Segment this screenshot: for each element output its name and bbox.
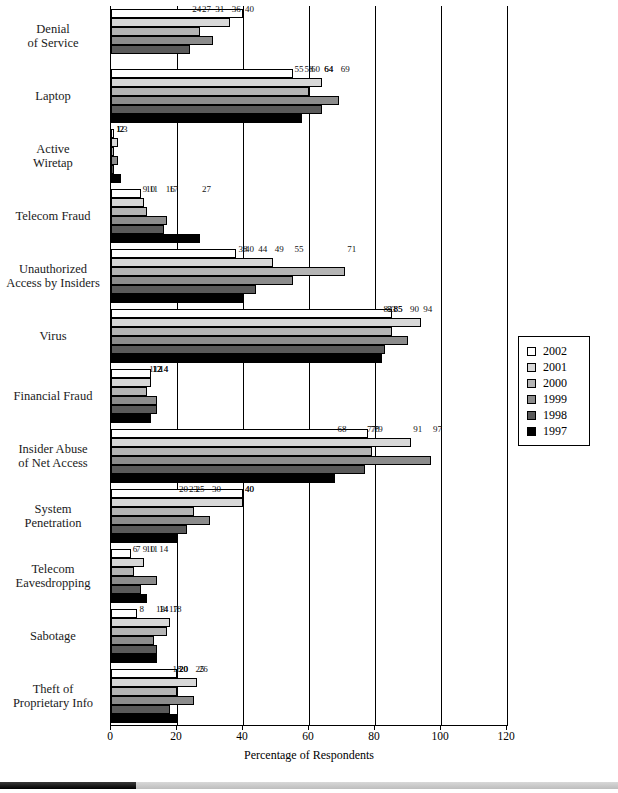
bar-value-label: 25 (194, 664, 205, 675)
bar (111, 396, 157, 405)
legend-label: 2002 (543, 344, 567, 358)
bar (111, 318, 421, 327)
bar (111, 558, 144, 567)
bar-value-label: 55 (293, 244, 304, 255)
bar (111, 174, 121, 183)
bar-value-label: 71 (345, 244, 356, 255)
bar-value-label: 3 (121, 124, 128, 135)
bar-value-label: 94 (421, 304, 432, 315)
bar (111, 267, 345, 276)
bar (111, 705, 170, 714)
bar (111, 618, 170, 627)
legend-swatch-icon (527, 411, 536, 420)
legend-swatch-icon (527, 395, 536, 404)
bar (111, 78, 322, 87)
bar-group: 610714911 (111, 546, 507, 606)
category-label-line: Active (0, 142, 106, 156)
category-label: Laptop (0, 89, 106, 103)
bar (111, 18, 230, 27)
category-label: Theft ofProprietary Info (0, 682, 106, 710)
legend-swatch-icon (527, 379, 536, 388)
category-label-line: Sabotage (0, 629, 106, 643)
x-tick-label: 100 (425, 730, 455, 742)
bar-value-label: 64 (322, 64, 333, 75)
bar (111, 507, 194, 516)
bar (111, 645, 157, 654)
category-label: Sabotage (0, 629, 106, 643)
bar (111, 369, 151, 378)
bar (111, 309, 392, 318)
bar-value-label: 24 (190, 4, 201, 15)
bar-group: 859485908382 (111, 306, 507, 366)
bar (111, 114, 302, 123)
bar-value-label: 44 (256, 244, 267, 255)
bar (111, 147, 114, 156)
legend-item[interactable]: 2002 (527, 343, 585, 359)
bar (111, 198, 144, 207)
x-tick-label: 20 (161, 730, 191, 742)
category-label-line: Eavesdropping (0, 576, 106, 590)
bar-value-label: 12 (151, 364, 162, 375)
bar (111, 714, 177, 723)
bottom-scroll-bar[interactable] (0, 782, 618, 789)
bar-group: 121211141412 (111, 366, 507, 426)
chart-legend: 200220012000199919981997 (518, 336, 590, 446)
category-label-line: Telecom (0, 562, 106, 576)
bar (111, 678, 197, 687)
bar (111, 585, 141, 594)
legend-swatch-icon (527, 347, 536, 356)
bar (111, 516, 210, 525)
bar (111, 189, 141, 198)
bar-value-label: 8 (137, 604, 144, 615)
bar (111, 474, 335, 483)
bar (111, 27, 200, 36)
bar-value-label: 9 (141, 544, 148, 555)
bar (111, 405, 157, 414)
bar-value-label: 58 (302, 64, 313, 75)
legend-item[interactable]: 1998 (527, 407, 585, 423)
bar-group: 556460696458 (111, 66, 507, 126)
bar (111, 627, 167, 636)
bar-value-label: 40 (243, 4, 254, 15)
legend-swatch-icon (527, 363, 536, 372)
category-label: SystemPenetration (0, 502, 106, 530)
bar-value-label: 27 (200, 4, 211, 15)
legend-item[interactable]: 1999 (527, 391, 585, 407)
bar-group: 789179977768 (111, 426, 507, 486)
bar (111, 207, 147, 216)
bar-value-label: 7 (134, 544, 141, 555)
category-label-line: Insider Abuse (0, 442, 106, 456)
bar-group: 121213 (111, 126, 507, 186)
category-label: Denialof Service (0, 22, 106, 50)
bar-group: 384971554440 (111, 246, 507, 306)
bar-value-label: 69 (339, 64, 350, 75)
bar-value-label: 68 (335, 424, 346, 435)
category-label-line: Laptop (0, 89, 106, 103)
bar-value-label: 77 (365, 424, 376, 435)
x-tick-label: 120 (491, 730, 521, 742)
legend-item[interactable]: 1997 (527, 423, 585, 439)
legend-item[interactable]: 2001 (527, 359, 585, 375)
legend-item[interactable]: 2000 (527, 375, 585, 391)
bar (111, 294, 243, 303)
bar-group: 81817131414 (111, 606, 507, 666)
bar (111, 609, 137, 618)
bar-value-label: 11 (147, 544, 158, 555)
bar (111, 45, 190, 54)
category-label-line: of Net Access (0, 456, 106, 470)
bar (111, 696, 194, 705)
legend-label: 2001 (543, 360, 567, 374)
bar (111, 429, 368, 438)
bar (111, 156, 118, 165)
bar (111, 69, 293, 78)
bar (111, 285, 256, 294)
bar-value-label: 31 (213, 4, 224, 15)
category-label: TelecomEavesdropping (0, 562, 106, 590)
category-label-line: System (0, 502, 106, 516)
legend-label: 2000 (543, 376, 567, 390)
bar-value-label: 20 (177, 484, 188, 495)
bar (111, 465, 365, 474)
bar (111, 354, 382, 363)
x-tick-label: 60 (293, 730, 323, 742)
bar-value-label: 49 (273, 244, 284, 255)
